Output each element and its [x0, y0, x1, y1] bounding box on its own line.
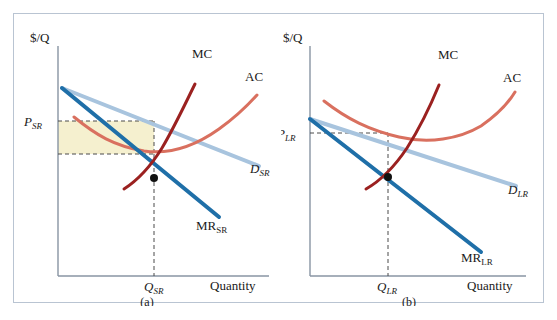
figure-container: $/Q Quantity PSR QSR MC AC DSR MRSR (a) [0, 0, 557, 320]
demand-curve-b [310, 119, 516, 186]
panel-a: $/Q Quantity PSR QSR MC AC DSR MRSR (a) [14, 14, 282, 306]
mc-label-b: MC [438, 47, 458, 62]
mc-label-a: MC [192, 46, 212, 61]
demand-label-a: DSR [249, 161, 270, 178]
y-axis-label-a: $/Q [30, 30, 50, 45]
demand-label-b: DLR [507, 182, 528, 199]
y-axis-label-b: $/Q [283, 30, 303, 45]
price-label-a: PSR [23, 114, 42, 131]
panel-b: $/Q Quantity PLR QLR MC AC DLR MRLR (b) [281, 14, 549, 306]
x-axis-label-a: Quantity [210, 278, 256, 293]
x-axis-label-b: Quantity [467, 278, 513, 293]
marginal-revenue-curve-b [310, 119, 481, 252]
panel-caption-a: (a) [140, 295, 153, 306]
quantity-label-a: QSR [144, 279, 164, 296]
marginal-revenue-label-b: MRLR [461, 250, 493, 267]
ac-label-b: AC [503, 70, 521, 85]
equilibrium-point-b [384, 173, 392, 181]
price-label-b: PLR [281, 126, 296, 143]
ac-label-a: AC [245, 69, 263, 84]
equilibrium-point-a [150, 174, 158, 182]
panel-caption-b: (b) [402, 295, 416, 306]
quantity-label-b: QLR [377, 279, 397, 296]
marginal-revenue-label-a: MRSR [196, 218, 227, 235]
